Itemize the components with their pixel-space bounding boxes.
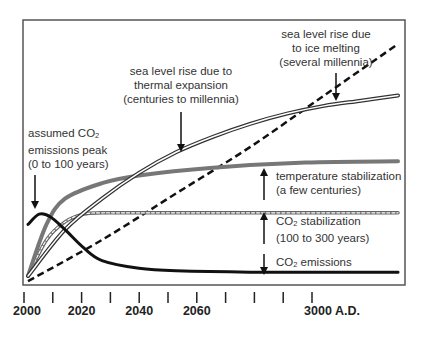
x-axis-ticks xyxy=(24,292,312,303)
label-thermal-expansion: sea level rise due to thermal expansion … xyxy=(120,64,242,106)
x-tick-label: 2060 xyxy=(183,304,211,318)
label-text: stabilization xyxy=(297,215,360,227)
label-text: CO xyxy=(276,256,293,268)
label-text: (centuries to millennia) xyxy=(120,92,242,106)
label-text: (several millennia) xyxy=(270,55,382,69)
label-text: CO xyxy=(276,215,293,227)
label-text: temperature stabilization xyxy=(276,169,401,183)
label-text: emissions xyxy=(297,256,351,268)
x-tick-label: 2000 xyxy=(13,304,41,318)
label-text: (100 to 300 years) xyxy=(276,231,369,245)
label-emissions-peak: assumed CO2 emissions peak (0 to 100 yea… xyxy=(28,126,98,171)
label-ice-melting: sea level rise due to ice melting (sever… xyxy=(270,27,382,69)
label-text: to ice melting xyxy=(270,41,382,55)
label-co2-emissions: CO2 emissions xyxy=(276,255,352,272)
x-tick-label: 3000 A.D. xyxy=(304,304,360,318)
label-text: emissions peak xyxy=(28,143,98,157)
label-temperature-stabilization: temperature stabilization (a few centuri… xyxy=(276,169,401,197)
label-text: sea level rise due xyxy=(270,27,382,41)
x-tick-label: 2020 xyxy=(68,304,96,318)
label-text: (a few centuries) xyxy=(276,183,401,197)
subscript: 2 xyxy=(95,131,99,140)
label-text: assumed CO xyxy=(28,127,95,139)
x-tick-label: 2040 xyxy=(125,304,153,318)
label-text: thermal expansion xyxy=(120,78,242,92)
label-text: sea level rise due to xyxy=(120,64,242,78)
label-text: (0 to 100 years) xyxy=(28,157,98,171)
label-co2-stabilization: CO2 stabilization (100 to 300 years) xyxy=(276,214,369,245)
